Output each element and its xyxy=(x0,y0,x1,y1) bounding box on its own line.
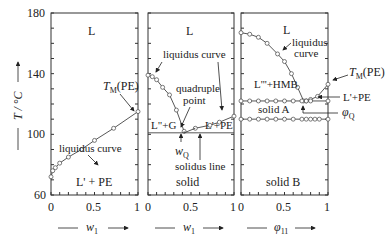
region-L: L xyxy=(186,24,193,38)
data-point xyxy=(317,117,321,121)
y-axis-title: T / °C xyxy=(11,90,25,120)
data-point xyxy=(326,99,330,103)
data-point xyxy=(248,99,252,103)
p1-x-tick-05: 0.5 xyxy=(86,200,101,214)
p2-x-tick-05: 0.5 xyxy=(183,200,198,214)
data-point xyxy=(49,175,53,179)
p3-x-label: φ11 xyxy=(274,220,288,236)
annotation-liquidus: liquidus curve xyxy=(59,142,122,154)
data-point xyxy=(161,85,165,89)
x-tick-labels: 0 0.5 1 0 0.5 1 0 0.5 1 xyxy=(48,200,330,214)
data-point xyxy=(248,32,252,36)
annotation-liquidus: liquidus curve xyxy=(163,48,226,60)
data-point xyxy=(248,117,252,121)
data-point xyxy=(309,117,313,121)
data-point xyxy=(256,35,260,39)
region-solid: solid xyxy=(176,175,199,189)
region-L-PE: L' + PE xyxy=(76,175,112,189)
data-point xyxy=(146,73,150,77)
annotation-quadruple: quadruple xyxy=(176,82,220,94)
panel-3-labels: L liquidus curve L'''+HMB solid A solid … xyxy=(254,23,385,189)
data-point xyxy=(309,99,313,103)
data-point xyxy=(239,99,243,103)
y-tick-180: 180 xyxy=(27,6,45,20)
data-point xyxy=(239,117,243,121)
data-point xyxy=(289,72,293,76)
data-point xyxy=(291,117,295,121)
data-point xyxy=(291,99,295,103)
p1-x-tick-1: 1 xyxy=(134,200,140,214)
data-point xyxy=(58,161,62,165)
data-point xyxy=(239,31,243,35)
phase-diagram-figure: T / °C 180 140 100 60 L L' + PE liquidus… xyxy=(0,0,391,237)
annotation-point: point xyxy=(183,94,206,106)
region-L: L xyxy=(283,23,290,37)
y-tick-100: 100 xyxy=(27,127,45,141)
y-axis-label: T / °C xyxy=(11,62,25,150)
data-point xyxy=(274,117,278,121)
annotation-TM-PE: TM(PE) xyxy=(349,65,385,81)
data-point xyxy=(316,94,320,98)
data-point xyxy=(168,93,172,97)
p3-x-tick-05: 0.5 xyxy=(276,200,291,214)
region-solid-A: solid A xyxy=(258,103,290,115)
region-L-PE: L'+PE xyxy=(205,119,233,131)
p3-x-tick-1: 1 xyxy=(324,200,330,214)
annotation-wQ: wQ xyxy=(175,144,189,160)
annotation-solidus: solidus line xyxy=(175,160,226,172)
p1-x-label: w1 xyxy=(86,220,98,236)
region-L: L xyxy=(88,24,95,38)
data-point xyxy=(136,110,140,114)
p3-x-tick-0: 0 xyxy=(238,200,244,214)
data-point xyxy=(112,126,116,130)
panel-1-labels: L L' + PE liquidus curve TM(PE) xyxy=(59,24,139,189)
data-point xyxy=(53,166,57,170)
p2-x-tick-0: 0 xyxy=(145,200,151,214)
annotation-TM-PE: TM(PE) xyxy=(103,79,139,95)
panel-2-labels: L liquidus curve quadruple point L"+G L'… xyxy=(151,24,233,189)
data-point xyxy=(174,108,178,112)
data-point xyxy=(193,126,197,130)
data-point xyxy=(304,117,308,121)
region-solid-B: solid B xyxy=(266,175,300,189)
region-L-HMB: L'''+HMB xyxy=(254,78,298,90)
data-point xyxy=(304,99,308,103)
panel-1-frame xyxy=(51,13,138,195)
data-point xyxy=(283,60,287,64)
data-point xyxy=(265,41,269,45)
region-L-G: L"+G xyxy=(151,119,176,131)
data-point xyxy=(155,78,159,82)
data-point xyxy=(232,114,236,118)
data-point xyxy=(300,117,304,121)
data-point xyxy=(313,117,317,121)
annotation-phiQ: φQ xyxy=(342,105,355,121)
p2-x-tick-1: 1 xyxy=(230,200,236,214)
annotation-L-PE: L'+PE xyxy=(343,91,371,103)
data-point xyxy=(265,117,269,121)
data-point xyxy=(66,155,70,159)
data-point xyxy=(256,117,260,121)
data-point xyxy=(276,52,280,56)
p2-x-label: w1 xyxy=(183,220,195,236)
data-point xyxy=(300,99,304,103)
data-point xyxy=(326,117,330,121)
data-point xyxy=(150,75,154,79)
y-tick-labels: 180 140 100 60 xyxy=(27,6,46,202)
x-axis-labels: w1 w1 φ11 xyxy=(58,220,315,236)
data-point xyxy=(326,82,330,86)
p1-x-tick-0: 0 xyxy=(48,200,54,214)
y-tick-140: 140 xyxy=(27,67,45,81)
annotation-curve: curve xyxy=(294,47,319,59)
y-tick-60: 60 xyxy=(34,188,46,202)
data-point xyxy=(283,117,287,121)
